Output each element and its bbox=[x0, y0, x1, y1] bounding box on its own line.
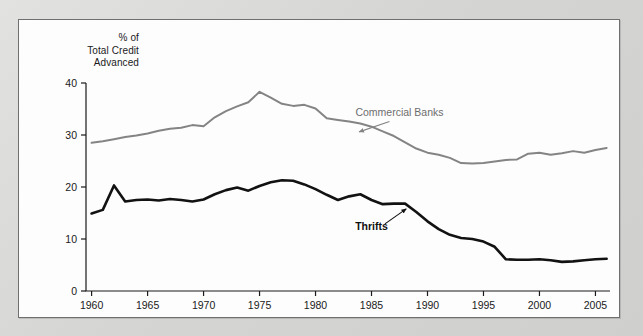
x-tick-label: 1975 bbox=[248, 299, 272, 311]
series-label-commercial-banks: Commercial Banks bbox=[355, 106, 443, 118]
series-line-thrifts bbox=[92, 180, 607, 262]
leader-arrow-commercial-banks bbox=[359, 121, 389, 131]
x-tick-label: 2000 bbox=[528, 299, 552, 311]
chart-card: % of Total Credit Advanced 010203040 196… bbox=[18, 19, 620, 318]
x-tick-labels: 1960196519701975198019851990199520002005 bbox=[80, 299, 607, 311]
y-tick-marks bbox=[81, 83, 86, 291]
x-tick-label: 1970 bbox=[192, 299, 216, 311]
y-tick-label: 30 bbox=[65, 129, 77, 141]
y-tick-label: 40 bbox=[65, 77, 77, 89]
line-chart-plot: 010203040 196019651970197519801985199019… bbox=[19, 20, 619, 317]
x-tick-label: 1985 bbox=[360, 299, 384, 311]
series-label-thrifts: Thrifts bbox=[355, 220, 388, 232]
x-tick-marks bbox=[92, 291, 596, 296]
series-line-commercial-banks bbox=[92, 92, 607, 164]
y-tick-label: 20 bbox=[65, 181, 77, 193]
y-tick-labels: 010203040 bbox=[65, 77, 77, 297]
x-tick-label: 1995 bbox=[472, 299, 496, 311]
x-tick-label: 1965 bbox=[136, 299, 160, 311]
figure-root: % of Total Credit Advanced 010203040 196… bbox=[0, 0, 643, 336]
x-tick-label: 1960 bbox=[80, 299, 104, 311]
y-tick-label: 0 bbox=[71, 285, 77, 297]
x-tick-label: 1990 bbox=[416, 299, 440, 311]
leader-arrow-thrifts bbox=[385, 209, 406, 224]
x-tick-label: 2005 bbox=[584, 299, 608, 311]
x-tick-label: 1980 bbox=[304, 299, 328, 311]
y-tick-label: 10 bbox=[65, 233, 77, 245]
data-series-group bbox=[92, 92, 607, 262]
